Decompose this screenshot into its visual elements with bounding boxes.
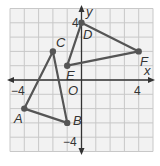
x-tick-neg-4: −4 (11, 84, 25, 98)
y-tick-neg-4: −4 (63, 135, 77, 149)
point-label-C: C (56, 35, 66, 50)
point-label-B: B (73, 113, 82, 128)
point-label-D: D (83, 27, 92, 42)
origin-label: O (68, 83, 78, 98)
point-D (78, 20, 84, 26)
point-label-A: A (13, 111, 23, 126)
y-tick-pos-4: 4 (72, 16, 79, 30)
coordinate-plane: y x O −4 4 4 −4 A B C D E F (0, 0, 160, 166)
point-label-F: F (140, 54, 149, 69)
x-tick-pos-4: 4 (134, 84, 141, 98)
point-label-E: E (66, 68, 75, 83)
point-B (64, 120, 70, 126)
